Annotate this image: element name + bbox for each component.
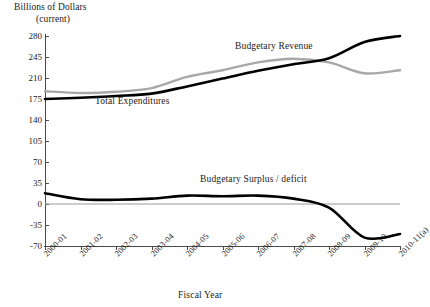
series-line-budgetary-surplus-deficit — [45, 193, 400, 239]
series-label-expenditures: Total Expenditures — [95, 96, 170, 106]
series-line-budgetary-revenue — [45, 59, 400, 93]
series-label-revenue: Budgetary Revenue — [235, 41, 313, 51]
x-axis-title: Fiscal Year — [178, 290, 222, 300]
series-label-balance: Budgetary Surplus / deficit — [200, 174, 307, 184]
